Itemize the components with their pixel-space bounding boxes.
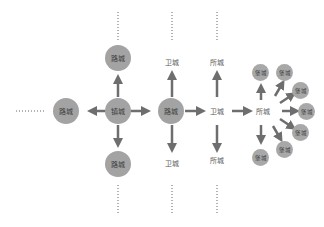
label-weicheng-bottom: 卫城 bbox=[165, 158, 179, 168]
node-baocheng-7: 堡城 bbox=[252, 149, 269, 166]
diagram-canvas: 路城 路城 镇城 路城 路城 卫城 卫城 卫城 所城 所城 所城 堡城 堡城 堡… bbox=[0, 0, 324, 227]
node-baocheng-3: 堡城 bbox=[292, 82, 309, 99]
label-weicheng-mid: 卫城 bbox=[210, 106, 224, 116]
node-lucheng-left: 路城 bbox=[53, 98, 79, 124]
node-zhencheng-center: 镇城 bbox=[105, 98, 131, 124]
node-baocheng-6: 堡城 bbox=[276, 141, 293, 158]
label-weicheng-top: 卫城 bbox=[165, 57, 179, 67]
label-suocheng-top: 所城 bbox=[210, 57, 224, 67]
node-lucheng-top: 路城 bbox=[105, 45, 131, 71]
label-suocheng-mid: 所城 bbox=[256, 106, 270, 116]
node-baocheng-2: 堡城 bbox=[276, 64, 293, 81]
node-lucheng-bottom: 路城 bbox=[105, 151, 131, 177]
node-baocheng-4: 堡城 bbox=[298, 103, 315, 120]
node-lucheng-right: 路城 bbox=[158, 98, 184, 124]
label-suocheng-bottom: 所城 bbox=[210, 155, 224, 165]
node-baocheng-5: 堡城 bbox=[292, 124, 309, 141]
node-baocheng-1: 堡城 bbox=[252, 64, 269, 81]
